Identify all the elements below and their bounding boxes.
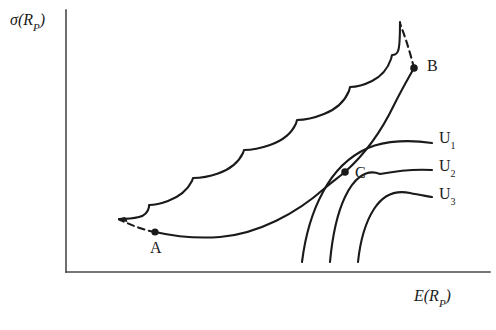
curve-label-u3-main: U	[439, 185, 451, 202]
point-label-a: A	[150, 240, 162, 256]
point-marker-b	[410, 64, 418, 72]
dashed-extension-B	[400, 23, 414, 68]
x-axis-label-sub: P	[439, 297, 446, 309]
indifference-curve-u3	[358, 192, 432, 262]
point-marker-c	[341, 168, 349, 176]
x-axis-label-close: )	[446, 287, 451, 304]
point-label-c: C	[355, 165, 366, 181]
point-marker-a	[151, 228, 158, 235]
curve-label-u3: U3	[439, 186, 456, 205]
scalloped-upper-boundary	[119, 22, 400, 219]
y-axis-label-close: )	[40, 11, 45, 28]
curve-label-u3-sub: 3	[451, 196, 456, 207]
curve-label-u1-sub: 1	[451, 140, 456, 151]
point-label-b: B	[427, 58, 438, 74]
y-axis-label-sub: P	[33, 21, 40, 33]
curve-label-u1-main: U	[439, 129, 451, 146]
curve-label-u2: U2	[439, 158, 456, 177]
indifference-curve-u2	[330, 170, 432, 262]
x-axis-label-main: E(R	[414, 287, 439, 304]
dashed-extension-A	[119, 220, 155, 233]
indifference-curve-u1	[302, 141, 432, 262]
portfolio-frontier-figure: σ(RP) E(RP) A B C U1 U2 U3	[0, 0, 496, 330]
curve-label-u2-main: U	[439, 157, 451, 174]
curve-label-u1: U1	[439, 130, 456, 149]
curve-label-u2-sub: 2	[451, 168, 456, 179]
figure-canvas	[0, 0, 496, 330]
x-axis-label: E(RP)	[414, 288, 451, 307]
efficient-frontier	[155, 68, 414, 237]
indifference-curve-u2-tangent-arm	[330, 170, 432, 262]
y-axis-label: σ(RP)	[10, 12, 45, 31]
y-axis-label-main: σ(R	[10, 11, 33, 28]
